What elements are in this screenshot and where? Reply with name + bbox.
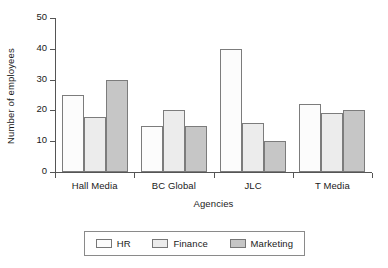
bar-finance-hall-media[interactable] bbox=[84, 117, 106, 172]
legend-label: HR bbox=[117, 238, 131, 249]
y-axis-tick-label: 30 bbox=[21, 73, 47, 84]
bar-group bbox=[62, 18, 128, 172]
y-axis-tick-label: 50 bbox=[21, 11, 47, 22]
x-axis-category-label: JLC bbox=[214, 180, 293, 191]
bar-hr-jlc[interactable] bbox=[220, 49, 242, 172]
chart-legend: HRFinanceMarketing bbox=[84, 231, 305, 256]
legend-label: Marketing bbox=[251, 238, 294, 249]
bar-group bbox=[141, 18, 207, 172]
legend-swatch-icon bbox=[96, 239, 112, 248]
y-axis-tick-label: 0 bbox=[21, 165, 47, 176]
y-axis-tick-label: 10 bbox=[21, 134, 47, 145]
y-axis-title-text: Number of employees bbox=[5, 48, 16, 144]
x-axis-category-label: Hall Media bbox=[55, 180, 134, 191]
legend-item-hr[interactable]: HR bbox=[96, 238, 131, 249]
bar-finance-bc-global[interactable] bbox=[163, 110, 185, 172]
y-axis-tick bbox=[50, 110, 55, 111]
bar-group bbox=[220, 18, 286, 172]
bar-marketing-hall-media[interactable] bbox=[106, 80, 128, 172]
y-axis-tick-label: 40 bbox=[21, 42, 47, 53]
x-axis-title: Agencies bbox=[55, 198, 372, 209]
legend-item-marketing[interactable]: Marketing bbox=[230, 238, 294, 249]
y-axis-tick bbox=[50, 49, 55, 50]
bar-hr-t-media[interactable] bbox=[299, 104, 321, 172]
y-axis-tick bbox=[50, 18, 55, 19]
bar-marketing-t-media[interactable] bbox=[343, 110, 365, 172]
bar-chart: Number of employees 01020304050 Hall Med… bbox=[0, 0, 388, 268]
bar-marketing-bc-global[interactable] bbox=[185, 126, 207, 172]
y-axis-line bbox=[55, 18, 56, 173]
bar-group bbox=[299, 18, 365, 172]
plot-area: 01020304050 bbox=[55, 18, 372, 173]
y-axis-tick bbox=[50, 80, 55, 81]
x-axis-tick bbox=[372, 173, 373, 178]
x-axis-tick bbox=[214, 173, 215, 178]
bar-finance-jlc[interactable] bbox=[242, 123, 264, 172]
bar-hr-bc-global[interactable] bbox=[141, 126, 163, 172]
x-axis-category-label: T Media bbox=[293, 180, 372, 191]
bar-marketing-jlc[interactable] bbox=[264, 141, 286, 172]
bar-finance-t-media[interactable] bbox=[321, 113, 343, 172]
bar-hr-hall-media[interactable] bbox=[62, 95, 84, 172]
y-axis-title: Number of employees bbox=[0, 18, 20, 173]
x-axis-tick bbox=[134, 173, 135, 178]
y-axis-tick bbox=[50, 141, 55, 142]
legend-item-finance[interactable]: Finance bbox=[152, 238, 208, 249]
legend-swatch-icon bbox=[230, 239, 246, 248]
legend-swatch-icon bbox=[152, 239, 168, 248]
y-axis-tick-label: 20 bbox=[21, 103, 47, 114]
x-axis-category-label: BC Global bbox=[134, 180, 213, 191]
x-axis-tick bbox=[55, 173, 56, 178]
x-axis-tick bbox=[293, 173, 294, 178]
legend-label: Finance bbox=[173, 238, 208, 249]
